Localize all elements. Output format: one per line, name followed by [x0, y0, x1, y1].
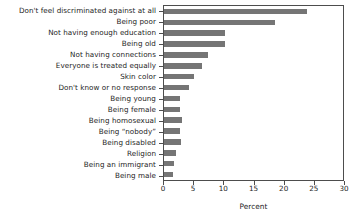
category-label: Being homosexual: [0, 115, 159, 126]
x-axis-tick-label: 25: [309, 185, 318, 192]
category-axis-labels: Don't feel discriminated against at allB…: [0, 5, 159, 181]
bar-row: [164, 126, 343, 137]
bar-row: [164, 17, 343, 28]
bar-row: [164, 137, 343, 148]
category-label: Being “nobody”: [0, 126, 159, 137]
x-axis-tick-label: 10: [219, 185, 228, 192]
x-axis-tick-label: 0: [161, 185, 166, 192]
category-label: Being old: [0, 38, 159, 49]
bar-row: [164, 71, 343, 82]
category-label: Being poor: [0, 16, 159, 27]
x-axis-tick-label: 30: [339, 185, 348, 192]
x-axis-title: Percent: [163, 202, 344, 211]
bar: [164, 172, 173, 178]
bar: [164, 128, 180, 134]
bar-row: [164, 60, 343, 71]
plot-area: [163, 5, 344, 181]
bar: [164, 161, 174, 167]
category-label: Being female: [0, 104, 159, 115]
bar-row: [164, 28, 343, 39]
bar-row: [164, 82, 343, 93]
category-label: Everyone is treated equally: [0, 60, 159, 71]
category-label: Skin color: [0, 71, 159, 82]
bar-row: [164, 39, 343, 50]
category-label: Being an immigrant: [0, 159, 159, 170]
bar: [164, 41, 225, 47]
category-label: Religion: [0, 148, 159, 159]
bar: [164, 85, 189, 91]
category-label: Being disabled: [0, 137, 159, 148]
bar: [164, 96, 180, 102]
bar-row: [164, 104, 343, 115]
bar-row: [164, 50, 343, 61]
x-axis-tick-label: 5: [191, 185, 196, 192]
bar-row: [164, 169, 343, 180]
category-label: Don't feel discriminated against at all: [0, 5, 159, 16]
bar: [164, 20, 275, 26]
bar: [164, 107, 180, 113]
bar-row: [164, 93, 343, 104]
x-axis-tick-label: 20: [279, 185, 288, 192]
category-label: Being male: [0, 170, 159, 181]
bars-layer: [164, 6, 343, 180]
category-label: Don't know or no response: [0, 82, 159, 93]
x-axis: 051015202530: [163, 181, 344, 195]
bar: [164, 9, 307, 15]
bar-row: [164, 6, 343, 17]
bar-row: [164, 158, 343, 169]
bar: [164, 74, 194, 80]
category-label: Being young: [0, 93, 159, 104]
bar: [164, 30, 225, 36]
bar: [164, 52, 208, 58]
bar-row: [164, 115, 343, 126]
category-label: Not having enough education: [0, 27, 159, 38]
bar: [164, 150, 176, 156]
bar: [164, 139, 181, 145]
category-label: Not having connections: [0, 49, 159, 60]
bar-row: [164, 147, 343, 158]
x-axis-tick-label: 15: [249, 185, 258, 192]
bar: [164, 63, 202, 69]
bar: [164, 117, 182, 123]
horizontal-bar-chart: Don't feel discriminated against at allB…: [0, 0, 357, 220]
